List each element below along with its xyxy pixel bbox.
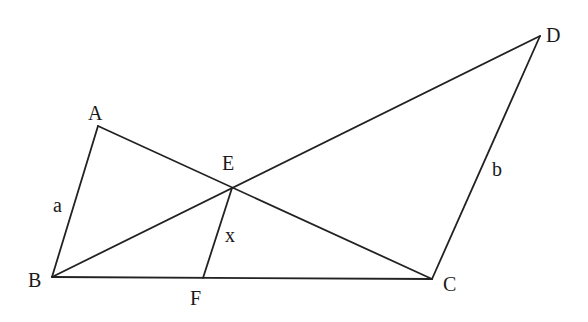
point-label-d: D [546, 24, 560, 46]
point-label-e: E [222, 152, 234, 174]
point-label-f: F [190, 287, 201, 309]
segment-ac [98, 126, 432, 279]
point-label-a: A [88, 102, 103, 124]
segments [52, 36, 540, 279]
geometry-diagram: ABCDEF abx [0, 0, 588, 322]
point-label-c: C [443, 273, 456, 295]
point-label-b: B [28, 269, 41, 291]
segment-cd [432, 36, 540, 279]
side-label-x: x [225, 224, 235, 246]
side-label-b: b [492, 158, 502, 180]
side-label-a: a [53, 194, 62, 216]
side-labels: abx [53, 158, 502, 246]
segment-bd [52, 36, 540, 277]
segment-bc [52, 277, 432, 279]
point-labels: ABCDEF [28, 24, 560, 309]
diagram-canvas: ABCDEF abx [0, 0, 588, 322]
